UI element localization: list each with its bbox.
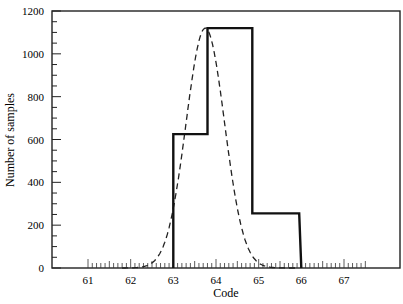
x-tick-label: 65 (253, 274, 265, 286)
chart: 020040060080010001200 61626364656667 Cod… (0, 0, 403, 304)
y-tick-label: 1000 (22, 48, 45, 60)
x-tick-label: 67 (339, 274, 351, 286)
x-axis-ticks (88, 259, 365, 268)
plot-frame (52, 11, 400, 268)
x-tick-label: 64 (211, 274, 223, 286)
normal-curve-dashed (122, 28, 299, 268)
y-axis-tick-labels: 020040060080010001200 (22, 5, 45, 274)
y-axis-label: Number of samples (3, 93, 17, 187)
x-tick-label: 62 (125, 274, 136, 286)
y-tick-label: 400 (28, 176, 45, 188)
x-tick-label: 66 (296, 274, 308, 286)
x-axis-tick-labels: 61626364656667 (83, 274, 351, 286)
x-tick-label: 61 (83, 274, 94, 286)
y-tick-label: 800 (28, 91, 45, 103)
x-tick-label: 63 (168, 274, 180, 286)
y-tick-label: 200 (28, 219, 45, 231)
histogram-step-line (173, 28, 301, 268)
y-tick-label: 600 (28, 134, 45, 146)
y-tick-label: 0 (39, 262, 45, 274)
y-axis-ticks (52, 11, 61, 268)
y-tick-label: 1200 (22, 5, 45, 17)
x-axis-label: Code (213, 286, 238, 300)
